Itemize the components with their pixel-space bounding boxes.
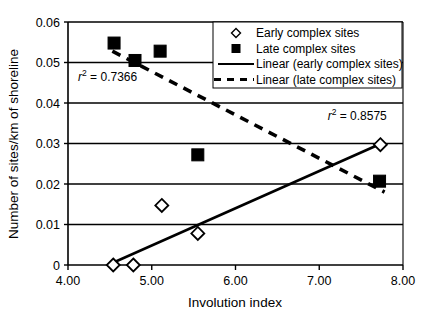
y-tick-label: 0.01 [36,218,60,232]
legend-swatch-filled-square [232,44,241,53]
marker-late-complex-site [129,54,141,66]
y-tick-label: 0.03 [36,137,60,151]
x-tick-label: 5.00 [140,274,164,288]
marker-late-complex-site [374,175,386,187]
y-tick-label: 0.02 [36,178,60,192]
r-squared-value: = 0.8575 [336,109,387,123]
y-tick-label: 0.06 [36,16,60,30]
legend-entry-label: Linear (late complex sites) [256,73,396,87]
scatter-plot: 00.010.020.030.040.050.06 4.005.006.007.… [0,0,433,322]
y-tick-label: 0.05 [36,56,60,70]
x-tick-label: 6.00 [223,274,247,288]
x-tick-label: 4.00 [56,274,80,288]
r-squared-label: r2 = 0.8575 [328,107,387,123]
y-axis-title: Number of sites/km of shoreline [6,49,21,239]
legend-entry-label: Linear (early complex sites) [256,57,403,71]
x-tick-label: 8.00 [391,274,415,288]
chart-container: 00.010.020.030.040.050.06 4.005.006.007.… [0,0,433,322]
legend: Early complex sitesLate complex sitesLin… [213,22,403,88]
marker-late-complex-site [192,149,204,161]
x-tick-label: 7.00 [307,274,331,288]
y-tick-label: 0 [53,259,60,273]
marker-late-complex-site [154,45,166,57]
x-axis-title: Involution index [188,295,282,310]
legend-entry-label: Early complex sites [256,26,359,40]
legend-entry-label: Late complex sites [256,42,355,56]
r-squared-label: r2 = 0.7366 [78,68,137,84]
r-squared-value: = 0.7366 [87,70,138,84]
marker-late-complex-site [108,37,120,49]
y-tick-label: 0.04 [36,97,60,111]
